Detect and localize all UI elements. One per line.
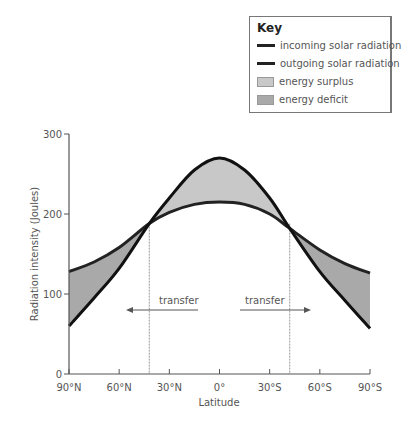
x-tick-label: 30°S xyxy=(258,382,282,393)
y-axis: 0100200300 xyxy=(43,129,69,380)
transfer-label-left: transfer xyxy=(159,295,199,306)
legend-label: incoming solar radiation xyxy=(280,40,401,51)
fill-swatch-icon xyxy=(257,95,274,105)
x-tick-label: 90°S xyxy=(358,382,382,393)
transfer-arrow-right: transfer xyxy=(240,295,311,313)
legend-item-outgoing: outgoing solar radiation xyxy=(257,58,400,69)
x-tick-label: 30°N xyxy=(157,382,182,393)
legend: Key incoming solar radiation outgoing so… xyxy=(249,16,392,113)
x-tick-label: 90°N xyxy=(56,382,81,393)
x-axis: 90°N60°N30°N0°30°S60°S90°S xyxy=(56,369,382,393)
y-tick-label: 0 xyxy=(56,369,62,380)
surplus-fill xyxy=(149,158,289,228)
x-tick-label: 60°N xyxy=(107,382,132,393)
y-axis-title: Radiation intensity (Joules) xyxy=(29,187,40,321)
fill-swatch-icon xyxy=(257,77,274,87)
legend-item-surplus: energy surplus xyxy=(257,76,353,87)
legend-title: Key xyxy=(257,21,282,35)
transfer-arrow-left: transfer xyxy=(126,295,199,313)
x-axis-title: Latitude xyxy=(198,397,239,408)
arrowhead-right-icon xyxy=(304,307,311,313)
legend-label: outgoing solar radiation xyxy=(280,58,400,69)
x-tick-label: 60°S xyxy=(308,382,332,393)
arrowhead-left-icon xyxy=(126,307,133,313)
y-tick-label: 200 xyxy=(43,209,62,220)
y-tick-label: 100 xyxy=(43,289,62,300)
legend-label: energy deficit xyxy=(279,94,348,105)
x-tick-label: 0° xyxy=(214,382,225,393)
line-swatch-icon xyxy=(257,62,275,65)
line-swatch-icon xyxy=(257,44,275,47)
transfer-label-right: transfer xyxy=(245,295,285,306)
legend-label: energy surplus xyxy=(279,76,353,87)
legend-item-deficit: energy deficit xyxy=(257,94,348,105)
y-tick-label: 300 xyxy=(43,129,62,140)
legend-item-incoming: incoming solar radiation xyxy=(257,40,401,51)
